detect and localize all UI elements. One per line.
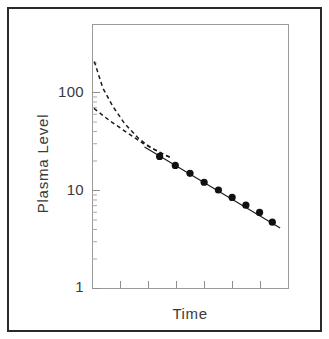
y-axis-tick-label-1: 1	[44, 278, 84, 295]
data-point-marker	[229, 194, 236, 201]
x-axis-title: Time	[92, 305, 288, 322]
chart-plot-area: 100 10 1 Time Plasma Level	[0, 0, 329, 339]
data-point-marker	[242, 202, 249, 209]
data-point-marker	[215, 186, 222, 193]
axis-frame	[93, 25, 289, 289]
residual-curve	[94, 61, 172, 158]
data-point-marker	[201, 179, 208, 186]
data-point-marker	[256, 209, 263, 216]
data-point-marker	[269, 219, 276, 226]
data-point-marker	[156, 153, 163, 160]
data-point-marker	[172, 162, 179, 169]
data-point-marker	[186, 170, 193, 177]
y-axis-title: Plasma Level	[34, 84, 51, 244]
figure-container: 100 10 1 Time Plasma Level	[0, 0, 329, 339]
